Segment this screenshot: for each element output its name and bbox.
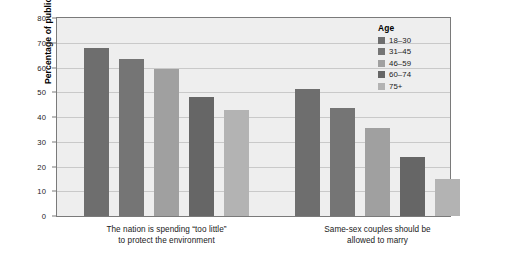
bar (154, 69, 179, 216)
x-axis-category-label: The nation is spending “too little”to pr… (67, 225, 267, 246)
x-axis-category-label-line: Same-sex couples should be (278, 225, 478, 236)
bar (119, 59, 144, 216)
legend-item-label: 46–59 (389, 59, 411, 68)
legend-swatch (378, 83, 385, 90)
bar (330, 108, 355, 216)
gridline (57, 167, 450, 168)
y-axis-tick-label: 20 (26, 162, 46, 171)
y-axis-tick-label: 40 (26, 113, 46, 122)
bar (365, 128, 390, 216)
y-axis-tick-mark (52, 166, 56, 167)
legend-swatch (378, 48, 385, 55)
bar (295, 89, 320, 216)
x-axis-category-label-line: to protect the environment (67, 236, 267, 247)
y-axis-tick-mark (52, 117, 56, 118)
legend-swatch (378, 37, 385, 44)
y-axis-tick-mark (52, 42, 56, 43)
y-axis-tick-mark (52, 216, 56, 217)
bar (189, 97, 214, 216)
legend-swatch (378, 71, 385, 78)
legend-item-label: 60–74 (389, 70, 411, 79)
y-axis-tick-label: 80 (26, 14, 46, 23)
gridline (57, 191, 450, 192)
gridline (57, 142, 450, 143)
y-axis-tick-mark (52, 191, 56, 192)
y-axis-tick-mark (52, 67, 56, 68)
y-axis-tick-label: 0 (26, 212, 46, 221)
y-axis-tick-mark (52, 92, 56, 93)
gridline (57, 117, 450, 118)
legend-item: 60–74 (378, 71, 448, 79)
legend-items: 18–3031–4546–5960–7475+ (378, 37, 448, 91)
legend-item-label: 75+ (389, 82, 403, 91)
legend: Age 18–3031–4546–5960–7475+ (378, 23, 448, 93)
legend-item-label: 31–45 (389, 47, 411, 56)
bar (435, 179, 460, 216)
y-axis-tick-label: 30 (26, 137, 46, 146)
bar-chart: Percentage of public who feel 0102030405… (0, 0, 505, 269)
y-axis-tick-label: 60 (26, 63, 46, 72)
legend-item: 75+ (378, 82, 448, 90)
bar (400, 157, 425, 216)
legend-swatch (378, 60, 385, 67)
y-axis-tick-label: 70 (26, 38, 46, 47)
legend-title: Age (378, 23, 448, 33)
y-axis-tick-label: 50 (26, 88, 46, 97)
x-axis-category-label: Same-sex couples should beallowed to mar… (278, 225, 478, 246)
bar (84, 48, 109, 216)
legend-item-label: 18–30 (389, 36, 411, 45)
legend-item: 46–59 (378, 59, 448, 67)
y-axis-tick-mark (52, 141, 56, 142)
y-axis-tick-label: 10 (26, 187, 46, 196)
legend-item: 31–45 (378, 48, 448, 56)
legend-item: 18–30 (378, 37, 448, 45)
x-axis-category-label-line: The nation is spending “too little” (67, 225, 267, 236)
y-axis-tick-mark (52, 18, 56, 19)
x-axis-category-label-line: allowed to marry (278, 236, 478, 247)
bar (224, 110, 249, 216)
